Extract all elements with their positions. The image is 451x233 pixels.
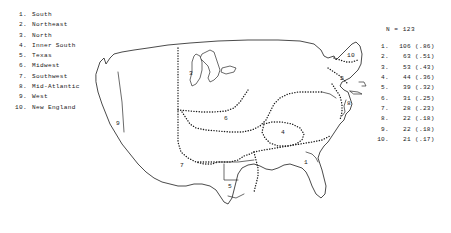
- legend-item-label: Inner South: [27, 41, 76, 51]
- region-label-southwest: 7: [180, 162, 184, 169]
- stat-rank: 7.: [376, 104, 389, 114]
- stat-rank: 9.: [376, 125, 389, 135]
- legend-item-label: New England: [27, 103, 76, 113]
- stat-rank: 3.: [376, 63, 389, 73]
- legend-item-label: North: [27, 31, 52, 41]
- us-coastline-outline: [96, 40, 362, 204]
- table-row: 4. 44 (.36): [376, 73, 448, 83]
- table-row: 10. 21 (.17): [376, 135, 448, 145]
- stat-rank: 1.: [376, 42, 389, 52]
- legend-item-label: South: [27, 10, 52, 20]
- legend-item-number: 7.: [14, 72, 27, 82]
- table-row: 1. 106 (.86): [376, 42, 448, 52]
- region-label-northeast: 2: [340, 75, 344, 82]
- legend-item-label: Mid-Atlantic: [27, 82, 80, 92]
- stat-rank: 2.: [376, 52, 389, 62]
- stat-count: 22: [389, 114, 411, 124]
- stat-count: 44: [389, 73, 411, 83]
- us-region-map: 1 2 3 4 5 6 7 8 9 10: [78, 12, 378, 222]
- stat-rank: 5.: [376, 83, 389, 93]
- legend-item-number: 4.: [14, 41, 27, 51]
- region-label-texas: 5: [228, 183, 232, 190]
- stat-count: 21: [389, 135, 411, 145]
- stat-rank: 4.: [376, 73, 389, 83]
- statistics-panel: N = 123 1. 106 (.86) 2. 63 (.51) 3. 53 (…: [376, 26, 448, 145]
- stat-proportion: (.43): [411, 63, 435, 73]
- stat-proportion: (.25): [411, 94, 435, 104]
- region-label-inner-south: 4: [281, 129, 285, 136]
- legend-item-label: Texas: [27, 51, 52, 61]
- table-row: 8. 22 (.18): [376, 114, 448, 124]
- stat-count: 53: [389, 63, 411, 73]
- legend-item-label: West: [27, 92, 48, 102]
- legend-item-number: 5.: [14, 51, 27, 61]
- region-label-midwest: 6: [224, 115, 228, 122]
- stat-proportion: (.17): [411, 135, 435, 145]
- region-label-north: 3: [189, 70, 193, 77]
- legend-item-number: 8.: [14, 82, 27, 92]
- sample-size-label: N = 123: [386, 26, 448, 33]
- legend-item-label: Northeast: [27, 20, 68, 30]
- legend-item-label: Southwest: [27, 72, 68, 82]
- stat-proportion: (.32): [411, 83, 435, 93]
- legend-item-number: 3.: [14, 31, 27, 41]
- stat-count: 39: [389, 83, 411, 93]
- legend-item-number: 10.: [14, 103, 27, 113]
- region-label-new-england: 10: [347, 52, 355, 59]
- stat-proportion: (.18): [411, 125, 435, 135]
- table-row: 9. 22 (.18): [376, 125, 448, 135]
- stat-proportion: (.86): [411, 42, 435, 52]
- region-label-south: 1: [304, 159, 308, 166]
- table-row: 2. 63 (.51): [376, 52, 448, 62]
- table-row: 3. 53 (.43): [376, 63, 448, 73]
- stat-count: 31: [389, 94, 411, 104]
- stat-rank: 6.: [376, 94, 389, 104]
- stat-rank: 8.: [376, 114, 389, 124]
- stat-count: 28: [389, 104, 411, 114]
- region-label-west: 9: [116, 120, 120, 127]
- stat-proportion: (.23): [411, 104, 435, 114]
- table-row: 5. 39 (.32): [376, 83, 448, 93]
- legend-item-number: 2.: [14, 20, 27, 30]
- stat-rank: 10.: [376, 135, 389, 145]
- table-row: 6. 31 (.25): [376, 94, 448, 104]
- stat-proportion: (.36): [411, 73, 435, 83]
- stat-count: 63: [389, 52, 411, 62]
- legend-item-number: 9.: [14, 92, 27, 102]
- cape-cod: [359, 82, 366, 86]
- long-island: [350, 91, 362, 94]
- legend-item-number: 6.: [14, 61, 27, 71]
- stat-proportion: (.51): [411, 52, 435, 62]
- figure-canvas: 1. South 2. Northeast 3. North 4. Inner …: [0, 0, 451, 233]
- legend-item-number: 1.: [14, 10, 27, 20]
- stat-count: 106: [389, 42, 411, 52]
- legend-item-label: Midwest: [27, 61, 60, 71]
- region-label-mid-atlantic: 8: [347, 100, 351, 107]
- table-row: 7. 28 (.23): [376, 104, 448, 114]
- stat-proportion: (.18): [411, 114, 435, 124]
- stat-count: 22: [389, 125, 411, 135]
